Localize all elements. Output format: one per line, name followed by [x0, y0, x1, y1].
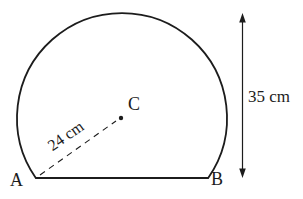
center-c-label: C: [128, 95, 140, 113]
truncated-circle-outline: [17, 13, 227, 178]
vertex-a-label: A: [10, 171, 23, 189]
height-arrow-bottom-head: [239, 169, 246, 179]
vertex-b-label: B: [211, 170, 223, 188]
center-point-dot: [119, 116, 123, 120]
height-arrow-top-head: [239, 13, 246, 23]
geometry-diagram: A B C 24 cm 35 cm: [0, 0, 303, 199]
height-measurement-label: 35 cm: [248, 88, 290, 105]
